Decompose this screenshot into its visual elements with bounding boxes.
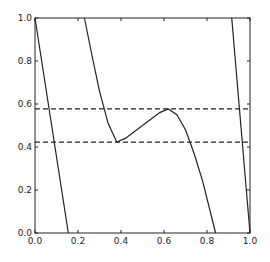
x-tick-label: 1.0 [243, 236, 258, 246]
y-tick-label: 1.0 [18, 13, 33, 23]
x-tick-label: 0.4 [114, 236, 129, 246]
x-tick-label: 0.8 [200, 236, 215, 246]
y-tick-label: 0.2 [18, 185, 32, 195]
map-curve [84, 18, 215, 233]
map-curve [35, 18, 68, 233]
chart: 0.00.20.40.60.81.00.00.20.40.60.81.0 [0, 0, 270, 262]
y-tick-label: 0.0 [18, 228, 33, 238]
x-tick-label: 0.6 [157, 236, 172, 246]
y-tick-label: 0.8 [18, 56, 33, 66]
map-curve [232, 18, 250, 233]
plot-lines [35, 18, 250, 233]
y-tick-label: 0.6 [18, 99, 33, 109]
x-tick-label: 0.2 [71, 236, 85, 246]
y-tick-label: 0.4 [18, 142, 33, 152]
